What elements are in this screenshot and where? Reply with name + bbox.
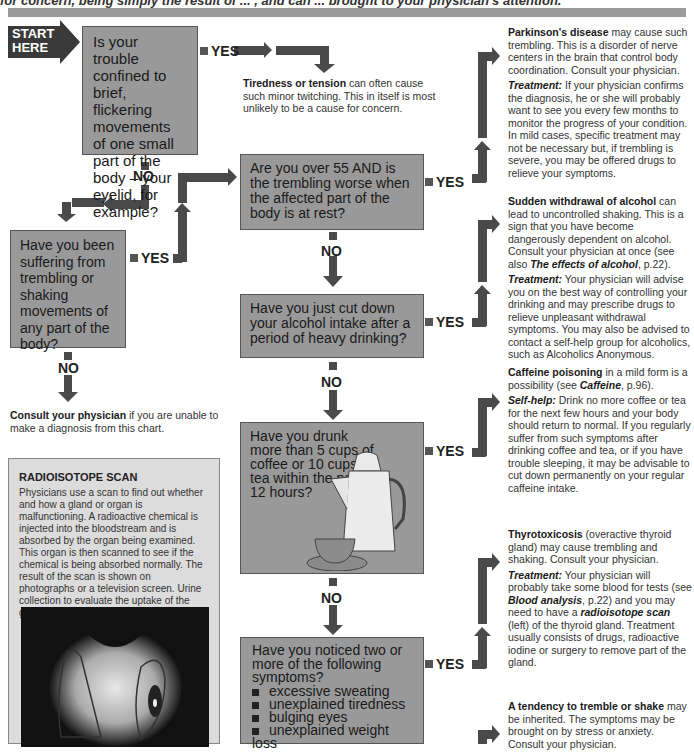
question-6-text: Have you noticed two or more of the foll… xyxy=(252,644,412,685)
outcome-tiredness: Tiredness or tension can often cause suc… xyxy=(243,77,443,118)
q3-no-label: NO xyxy=(321,243,342,259)
start-label-line2: HERE xyxy=(12,41,54,55)
outcome-title: Tiredness or tension xyxy=(243,77,346,89)
symptom-item: unexplained weight loss xyxy=(252,724,412,750)
outcome-inherited: A tendency to tremble or shake may be in… xyxy=(508,700,692,753)
radioisotope-title: RADIOISOTOPE SCAN xyxy=(19,471,209,483)
outcome-caffeine: Caffeine poisoning in a mild form is a p… xyxy=(508,366,692,497)
outcome-parkinsons: Parkinson's disease may cause such tremb… xyxy=(508,26,692,182)
outcome-alcohol: Sudden withdrawal of alcohol can lead to… xyxy=(508,195,692,364)
question-box-4: Have you just cut down your alcohol inta… xyxy=(240,294,424,358)
question-box-1: Is your trouble confined to brief, flick… xyxy=(82,26,198,155)
q1-no-label: NO xyxy=(133,168,154,184)
thyroid-scan-image xyxy=(21,607,209,747)
q1-yes-label: YES xyxy=(200,43,239,59)
question-4-text: Have you just cut down your alcohol inta… xyxy=(250,300,410,346)
q4-yes-label: YES xyxy=(425,314,464,330)
q4-no-label: NO xyxy=(321,374,342,390)
question-box-3: Are you over 55 AND is the trembling wor… xyxy=(240,154,424,230)
question-2-text: Have you been suffering from trembling o… xyxy=(20,237,114,352)
q5-yes-label: YES xyxy=(425,443,464,459)
start-label-line1: START xyxy=(12,27,54,41)
outcome-consult: Consult your physician if you are unable… xyxy=(10,409,230,437)
q3-yes-label: YES xyxy=(425,174,464,190)
q5-no-label: NO xyxy=(321,590,342,606)
question-3-text: Are you over 55 AND is the trembling wor… xyxy=(250,160,410,221)
q6-yes-label: YES xyxy=(425,656,464,672)
start-here-label: START HERE xyxy=(12,27,54,55)
question-box-6: Have you noticed two or more of the foll… xyxy=(240,637,424,744)
outcome-thyrotoxicosis: Thyrotoxicosis (overactive thyroid gland… xyxy=(508,528,692,672)
q2-no-label: NO xyxy=(58,360,79,376)
question-box-2: Have you been suffering from trembling o… xyxy=(10,230,126,348)
radioisotope-body: Physicians use a scan to find out whethe… xyxy=(19,487,209,619)
q2-yes-label: YES xyxy=(130,250,169,266)
radioisotope-panel: RADIOISOTOPE SCAN Physicians use a scan … xyxy=(8,458,220,744)
coffee-pot-illustration xyxy=(297,445,423,571)
question-box-5: Have you drunk more than 5 cups of coffe… xyxy=(240,422,424,574)
